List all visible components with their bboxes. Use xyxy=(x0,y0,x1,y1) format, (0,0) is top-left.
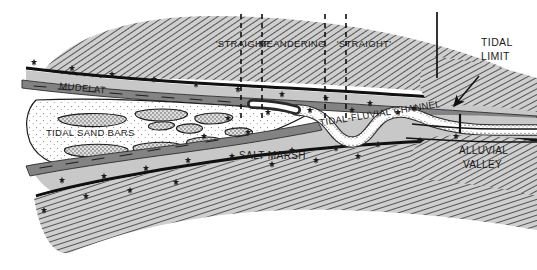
sand-bar xyxy=(148,122,174,130)
diagram-canvas: 'STRAIGHT' MEANDERING 'STRAIGHT' MUDFLAT… xyxy=(0,0,537,270)
label-reach-meandering: MEANDERING xyxy=(258,38,325,49)
sand-bar xyxy=(135,109,187,121)
label-tidal-sand-bars: TIDAL SAND BARS xyxy=(46,127,135,138)
tidal-estuary-diagram: 'STRAIGHT' MEANDERING 'STRAIGHT' MUDFLAT… xyxy=(0,0,537,270)
label-tidal-limit-line2: LIMIT xyxy=(481,50,510,62)
label-tidal-limit-line1: TIDAL xyxy=(481,36,513,48)
sand-bar xyxy=(176,124,202,133)
label-alluvial-valley-line1: ALLUVIAL xyxy=(459,145,508,156)
label-reach-straight-right: 'STRAIGHT' xyxy=(337,38,392,49)
label-alluvial-valley-line2: VALLEY xyxy=(463,159,502,170)
label-salt-marsh: SALT MARSH xyxy=(239,150,306,161)
sand-bar xyxy=(58,114,126,127)
